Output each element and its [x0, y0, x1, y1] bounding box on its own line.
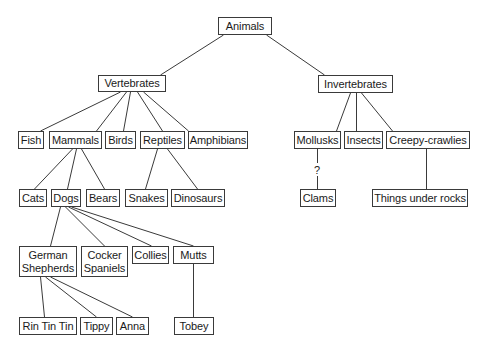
edge-reptiles-to-snakes [146, 149, 158, 189]
node-dogs: Dogs [51, 189, 81, 207]
node-creepy-crawlies: Creepy-crawlies [386, 131, 470, 149]
node-invertebrates: Invertebrates [318, 75, 393, 93]
node-collies: Collies [132, 246, 169, 264]
node-dinosaurs: Dinosaurs [171, 189, 225, 207]
edge-vertebrates-to-birds [124, 92, 131, 131]
node-vertebrates: Vertebrates [98, 75, 166, 92]
edge-german_shepherds-to-rin_tin_tin [41, 277, 45, 317]
node-birds: Birds [105, 131, 136, 149]
edge-reptiles-to-dinosaurs [168, 149, 198, 189]
tree-connector-lines [0, 0, 481, 354]
node-tippy: Tippy [80, 317, 113, 335]
node-snakes: Snakes [125, 189, 168, 207]
edge-vertebrates-to-fish [41, 92, 121, 131]
edge-invertebrates-to-mollusks [337, 93, 351, 131]
edge-german_shepherds-to-anna [51, 277, 133, 317]
edge-dogs-to-mutts [72, 207, 194, 246]
node-reptiles: Reptiles [140, 131, 185, 149]
node-cocker-spaniels: Cocker Spaniels [81, 246, 128, 277]
edge-mammals-to-dogs [68, 149, 77, 189]
edge-dogs-to-collies [69, 207, 152, 246]
node-rin-tin-tin: Rin Tin Tin [19, 317, 77, 335]
node-insects: Insects [344, 131, 383, 149]
node-german-shepherds: German Shepherds [19, 246, 77, 277]
edge-animals-to-vertebrates [161, 35, 224, 75]
node-cats: Cats [19, 189, 47, 207]
edge-german_shepherds-to-tippy [46, 277, 97, 317]
node-anna: Anna [116, 317, 149, 335]
edge-vertebrates-to-mammals [97, 92, 127, 131]
node-mollusks: Mollusks [294, 131, 341, 149]
node-bears: Bears [86, 189, 120, 207]
node-fish: Fish [18, 131, 44, 149]
node-animals: Animals [218, 17, 272, 35]
uncertain-relation-label: ? [314, 164, 320, 176]
edge-dogs-to-cocker_spaniels [66, 207, 105, 246]
edge-mammals-to-bears [82, 149, 105, 189]
edge-animals-to-invertebrates [267, 35, 325, 75]
node-amphibians: Amphibians [188, 131, 248, 149]
edge-invertebrates-to-creepy_crawlies [362, 93, 393, 131]
node-clams: Clams [300, 189, 336, 207]
node-things-under-rocks: Things under rocks [372, 189, 468, 207]
node-tobey: Tobey [174, 317, 214, 335]
edge-dogs-to-german_shepherds [51, 207, 61, 246]
edge-mammals-to-cats [35, 149, 73, 189]
animal-taxonomy-tree: AnimalsVertebratesInvertebratesFishMamma… [0, 0, 481, 354]
node-mutts: Mutts [173, 246, 214, 264]
node-mammals: Mammals [49, 131, 102, 149]
